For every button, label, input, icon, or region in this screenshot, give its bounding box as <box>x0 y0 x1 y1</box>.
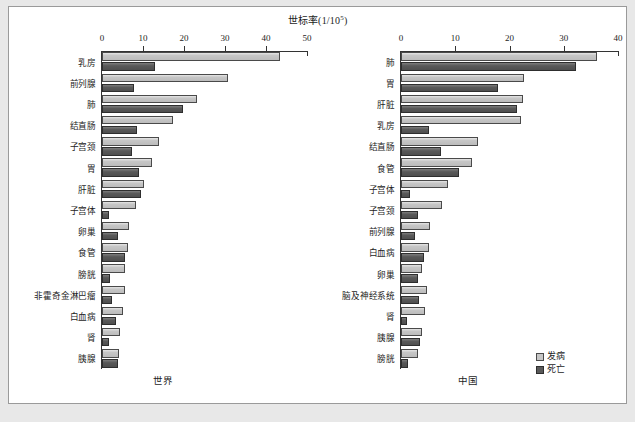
bar-incidence-world-0 <box>102 52 280 60</box>
plot-area-world: 01020304050 <box>101 51 307 369</box>
bar-mortality-china-1 <box>401 84 498 92</box>
x-axis-tick-label-world-50: 50 <box>303 33 312 43</box>
chart-panel-world: 乳房前列腺肺结直肠子宫颈胃肝脏子宫体卵巢食管膀胱非霍奇金淋巴瘤白血病肾胰腺 01… <box>13 29 313 389</box>
bar-incidence-china-9 <box>401 243 429 251</box>
bar-mortality-world-5 <box>102 168 139 176</box>
bar-incidence-china-5 <box>401 158 472 166</box>
x-axis-tick-label-china-10: 10 <box>451 33 460 43</box>
bar-mortality-world-0 <box>102 62 155 70</box>
category-label-world-0: 乳房 <box>78 56 96 68</box>
category-label-china-11: 脑及神经系统 <box>342 289 395 301</box>
bar-mortality-china-5 <box>401 168 459 176</box>
category-label-china-8: 前列腺 <box>369 225 395 237</box>
x-axis-tick-label-world-40: 40 <box>262 33 271 43</box>
bar-incidence-china-13 <box>401 328 422 336</box>
figure-container: 世标率(1/105) 乳房前列腺肺结直肠子宫颈胃肝脏子宫体卵巢食管膀胱非霍奇金淋… <box>8 6 627 404</box>
x-axis-tick-china-30 <box>564 46 565 51</box>
x-axis-tick-label-world-0: 0 <box>100 33 105 43</box>
category-label-china-0: 肺 <box>386 56 395 68</box>
category-label-world-8: 卵巢 <box>78 225 96 237</box>
x-axis-end-cap-china <box>618 51 619 56</box>
category-label-china-14: 膀胱 <box>377 352 395 364</box>
legend-item-incidence: 发病 <box>536 350 565 363</box>
legend-label-incidence: 发病 <box>547 352 565 361</box>
x-axis-end-cap-world <box>307 51 308 56</box>
bar-mortality-world-12 <box>102 317 116 325</box>
bar-incidence-china-12 <box>401 307 425 315</box>
panel-caption-china: 中国 <box>312 373 624 387</box>
bar-mortality-china-12 <box>401 317 407 325</box>
category-label-china-10: 卵巢 <box>377 268 395 280</box>
x-axis-tick-china-10 <box>455 46 456 51</box>
bar-mortality-world-8 <box>102 232 118 240</box>
bar-mortality-china-4 <box>401 147 441 155</box>
category-label-world-1: 前列腺 <box>70 77 96 89</box>
bar-incidence-china-10 <box>401 264 422 272</box>
x-axis-tick-world-20 <box>184 46 185 51</box>
bar-incidence-china-3 <box>401 116 521 124</box>
bar-mortality-china-8 <box>401 232 415 240</box>
bar-mortality-china-13 <box>401 338 420 346</box>
legend-item-mortality: 死亡 <box>536 363 565 376</box>
category-label-world-6: 肝脏 <box>78 183 96 195</box>
category-label-china-2: 肝脏 <box>377 98 395 110</box>
bar-incidence-china-1 <box>401 74 524 82</box>
bar-mortality-china-3 <box>401 126 429 134</box>
x-axis-tick-world-30 <box>225 46 226 51</box>
bar-incidence-world-3 <box>102 116 173 124</box>
x-axis-tick-label-world-10: 10 <box>139 33 148 43</box>
chart-legend: 发病 死亡 <box>536 350 565 376</box>
bar-mortality-china-9 <box>401 253 424 261</box>
x-axis-tick-label-china-20: 20 <box>505 33 514 43</box>
bar-mortality-china-7 <box>401 211 418 219</box>
bar-incidence-china-2 <box>401 95 523 103</box>
category-label-world-7: 子宫体 <box>70 204 96 216</box>
bar-mortality-china-10 <box>401 274 418 282</box>
category-label-world-2: 肺 <box>87 98 96 110</box>
bar-incidence-china-11 <box>401 286 427 294</box>
category-label-china-6: 子宫体 <box>369 183 395 195</box>
category-label-china-13: 胰腺 <box>377 331 395 343</box>
bar-incidence-world-1 <box>102 74 228 82</box>
bar-mortality-world-10 <box>102 274 110 282</box>
panel-caption-world: 世界 <box>13 373 313 387</box>
bar-incidence-world-8 <box>102 222 129 230</box>
bar-incidence-china-6 <box>401 180 448 188</box>
category-label-world-9: 食管 <box>78 246 96 258</box>
x-axis-tick-label-china-30: 30 <box>559 33 568 43</box>
bar-incidence-world-4 <box>102 137 159 145</box>
bar-mortality-world-9 <box>102 253 125 261</box>
chart-panel-china: 肺胃肝脏乳房结直肠食管子宫体子宫颈前列腺白血病卵巢脑及神经系统肾胰腺膀胱 010… <box>312 29 624 389</box>
category-label-world-5: 胃 <box>87 162 96 174</box>
category-labels-world: 乳房前列腺肺结直肠子宫颈胃肝脏子宫体卵巢食管膀胱非霍奇金淋巴瘤白血病肾胰腺 <box>13 51 99 369</box>
bar-mortality-world-11 <box>102 296 112 304</box>
category-label-china-5: 食管 <box>377 162 395 174</box>
x-axis-tick-world-10 <box>143 46 144 51</box>
bar-mortality-china-11 <box>401 296 419 304</box>
bar-incidence-world-14 <box>102 349 119 357</box>
bar-incidence-world-5 <box>102 158 152 166</box>
bar-mortality-world-6 <box>102 190 141 198</box>
category-label-china-3: 乳房 <box>377 119 395 131</box>
bar-mortality-world-2 <box>102 105 183 113</box>
bar-mortality-world-3 <box>102 126 137 134</box>
bar-incidence-world-9 <box>102 243 128 251</box>
x-axis-tick-world-40 <box>266 46 267 51</box>
bar-incidence-china-8 <box>401 222 430 230</box>
category-label-china-7: 子宫颈 <box>369 204 395 216</box>
category-label-china-4: 结直肠 <box>369 140 395 152</box>
figure-title: 世标率(1/105) <box>9 12 626 27</box>
figure-title-main: 世标率(1/10 <box>288 15 341 26</box>
bar-mortality-china-6 <box>401 190 410 198</box>
bar-incidence-world-2 <box>102 95 197 103</box>
category-label-world-4: 子宫颈 <box>70 140 96 152</box>
bar-incidence-china-14 <box>401 349 418 357</box>
bar-mortality-world-7 <box>102 211 109 219</box>
figure-title-tail: ) <box>344 15 348 26</box>
category-label-world-14: 胰腺 <box>78 352 96 364</box>
bar-incidence-world-10 <box>102 264 125 272</box>
category-label-world-13: 肾 <box>87 331 96 343</box>
legend-swatch-mortality <box>536 366 544 374</box>
bar-incidence-china-4 <box>401 137 478 145</box>
category-label-china-9: 白血病 <box>369 246 395 258</box>
